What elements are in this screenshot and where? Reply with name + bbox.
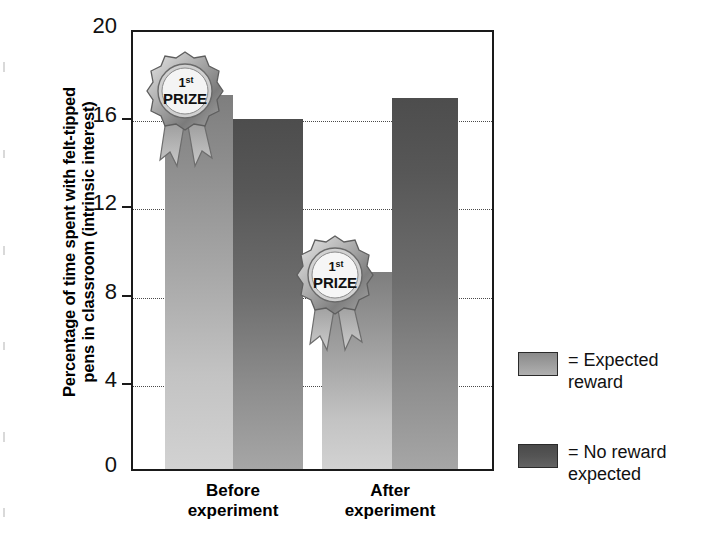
y-tick-label-16: 16 xyxy=(93,104,117,126)
x-axis-category-after-line-2: experiment xyxy=(320,501,460,521)
legend-swatch-expected-reward xyxy=(518,352,558,376)
x-axis-category-before-line-2: experiment xyxy=(163,501,303,521)
y-tick-label-8: 8 xyxy=(105,281,117,303)
legend-label-expected-reward-text: Expected reward xyxy=(568,350,659,392)
y-tick-mark-12 xyxy=(122,206,131,208)
svg-text:PRIZE: PRIZE xyxy=(163,90,207,107)
bar-after-no-reward-expected[interactable] xyxy=(392,98,458,470)
scan-artifact xyxy=(3,150,5,158)
legend: = Expected reward = No reward expected xyxy=(518,350,698,534)
legend-item-expected-reward[interactable]: = Expected reward xyxy=(518,350,698,394)
y-tick-mark-8 xyxy=(122,295,131,297)
y-tick-label-12: 12 xyxy=(93,192,117,214)
y-tick-label-20: 20 xyxy=(93,15,117,37)
y-axis-title-line-1: Percentage of time spent with felt-tippe… xyxy=(60,87,79,397)
x-axis-category-after: After experiment xyxy=(320,481,460,521)
y-tick-mark-4 xyxy=(122,383,131,385)
scan-artifact xyxy=(3,62,5,72)
legend-label-no-reward-expected-text: No reward expected xyxy=(568,442,667,484)
y-tick-label-4: 4 xyxy=(105,369,117,391)
scan-artifact xyxy=(3,342,5,350)
y-axis-title-line-2: pens in classroom (intrinsic interest) xyxy=(79,101,98,382)
x-axis-category-before-line-1: Before xyxy=(163,481,303,501)
legend-label-expected-reward: = Expected reward xyxy=(568,350,659,394)
prize-ribbon-badge: 1st PRIZE xyxy=(292,232,378,356)
bar-chart-figure: Percentage of time spent with felt-tippe… xyxy=(0,0,702,560)
x-axis-category-after-line-1: After xyxy=(320,481,460,501)
legend-swatch-no-reward-expected xyxy=(518,444,558,468)
legend-label-no-reward-expected: = No reward expected xyxy=(568,442,667,486)
legend-item-no-reward-expected[interactable]: = No reward expected xyxy=(518,442,698,486)
scan-artifact xyxy=(3,432,5,442)
scan-artifact xyxy=(3,508,5,517)
y-tick-label-0: 0 xyxy=(105,454,117,476)
y-tick-mark-16 xyxy=(122,118,131,120)
svg-text:PRIZE: PRIZE xyxy=(313,274,357,291)
x-axis-category-before: Before experiment xyxy=(163,481,303,521)
prize-ribbon-badge: 1st PRIZE xyxy=(142,48,228,172)
scan-artifact xyxy=(3,246,5,255)
y-axis-title: Percentage of time spent with felt-tippe… xyxy=(50,32,108,452)
